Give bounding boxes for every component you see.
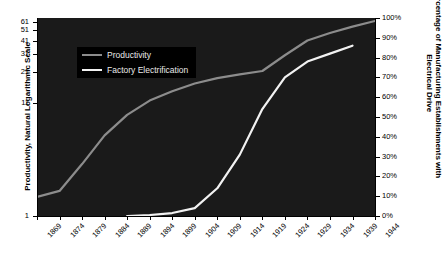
right-axis-tick-mark <box>376 38 380 39</box>
right-axis-tick-label: 60% <box>382 93 397 101</box>
x-axis-tick-label: 1889 <box>136 222 153 239</box>
x-axis-tick-mark <box>262 216 263 220</box>
left-axis-tick-label: 61 <box>21 18 29 26</box>
left-axis-tick-label: 21 <box>21 68 29 76</box>
x-axis-tick-label: 1939 <box>361 222 378 239</box>
x-axis-tick-label: 1884 <box>113 222 130 239</box>
x-axis-tick-label: 1919 <box>271 222 288 239</box>
x-axis-tick-label: 1914 <box>249 222 266 239</box>
left-axis-tick-label: 1 <box>25 212 29 220</box>
legend-item-factory-electrification[interactable]: Factory Electrification <box>82 66 188 75</box>
right-axis-tick-mark <box>376 117 380 118</box>
left-axis-tick-mark <box>33 41 37 42</box>
right-axis-tick-label: 50% <box>382 113 397 121</box>
right-axis-tick-mark <box>376 196 380 197</box>
left-axis-tick-mark <box>33 72 37 73</box>
legend-swatch-icon <box>82 54 102 56</box>
legend-label: Factory Electrification <box>107 66 188 75</box>
left-axis-tick-mark <box>33 30 37 31</box>
chart-legend: ProductivityFactory Electrification <box>77 47 196 78</box>
right-axis-tick-label: 0% <box>382 212 393 220</box>
x-axis-tick-mark <box>127 216 128 220</box>
right-axis-tick-mark <box>376 137 380 138</box>
x-axis-tick-label: 1874 <box>68 222 85 239</box>
x-axis-tick-mark <box>37 216 38 220</box>
x-axis-tick-mark <box>375 216 376 220</box>
x-axis-tick-label: 1904 <box>204 222 221 239</box>
chart-screenshot: Productivity, Natural Logarithmic Scale … <box>0 0 448 255</box>
left-axis-title: Productivity, Natural Logarithmic Scale <box>24 18 33 214</box>
x-axis-tick-label: 1929 <box>316 222 333 239</box>
x-axis-tick-label: 1899 <box>181 222 198 239</box>
right-axis-tick-mark <box>376 157 380 158</box>
x-axis-tick-label: 1879 <box>91 222 108 239</box>
x-axis-tick-mark <box>285 216 286 220</box>
x-axis-tick-mark <box>60 216 61 220</box>
x-axis-tick-mark <box>353 216 354 220</box>
plot-area: ProductivityFactory Electrification <box>37 18 375 216</box>
right-axis-tick-mark <box>376 18 380 19</box>
left-axis-tick-label: 11 <box>21 99 29 107</box>
legend-label: Productivity <box>107 51 151 60</box>
right-axis-tick-label: 70% <box>382 73 397 81</box>
x-axis-tick-label: 1869 <box>46 222 63 239</box>
right-axis-tick-mark <box>376 176 380 177</box>
x-axis-tick-mark <box>330 216 331 220</box>
x-axis-tick-label: 1934 <box>339 222 356 239</box>
legend-swatch-icon <box>82 69 102 71</box>
right-axis-tick-label: 100% <box>382 14 401 22</box>
x-axis-tick-mark <box>195 216 196 220</box>
x-axis-tick-mark <box>105 216 106 220</box>
right-axis-title: Percentage of Manufacturing Establishmen… <box>425 0 443 181</box>
left-axis-tick-label: 51 <box>21 26 29 34</box>
right-axis-tick-label: 80% <box>382 54 397 62</box>
left-axis-tick-mark <box>33 22 37 23</box>
x-axis-tick-label: 1909 <box>226 222 243 239</box>
legend-item-productivity[interactable]: Productivity <box>82 51 188 60</box>
left-axis-tick-mark <box>33 54 37 55</box>
x-axis-tick-mark <box>82 216 83 220</box>
x-axis-tick-mark <box>150 216 151 220</box>
right-axis-tick-mark <box>376 97 380 98</box>
right-axis-tick-label: 30% <box>382 153 397 161</box>
x-axis-tick-label: 1924 <box>294 222 311 239</box>
right-axis-tick-mark <box>376 58 380 59</box>
right-axis-tick-mark <box>376 216 380 217</box>
left-axis-tick-label: 41 <box>21 37 29 45</box>
right-axis-tick-label: 20% <box>382 172 397 180</box>
right-axis-tick-label: 10% <box>382 192 397 200</box>
right-axis-tick-label: 40% <box>382 133 397 141</box>
right-axis-tick-label: 90% <box>382 34 397 42</box>
right-axis-tick-mark <box>376 77 380 78</box>
left-axis-line <box>37 18 38 217</box>
x-axis-tick-label: 1944 <box>384 222 401 239</box>
x-axis-tick-label: 1894 <box>159 222 176 239</box>
x-axis-line <box>37 216 376 217</box>
x-axis-tick-mark <box>307 216 308 220</box>
left-axis-tick-label: 31 <box>21 50 29 58</box>
x-axis-tick-mark <box>240 216 241 220</box>
left-axis-tick-mark <box>33 103 37 104</box>
x-axis-tick-mark <box>217 216 218 220</box>
x-axis-tick-mark <box>172 216 173 220</box>
